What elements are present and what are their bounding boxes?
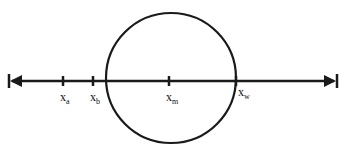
diagram-canvas [0, 0, 347, 149]
diagram: xa xb xm xw [0, 0, 347, 149]
label-xb: xb [90, 91, 100, 106]
label-xa: xa [60, 91, 70, 106]
right-arrow-icon [324, 74, 337, 88]
label-xw: xw [238, 86, 250, 101]
label-xm: xm [166, 91, 178, 106]
left-arrow-icon [9, 74, 22, 88]
circle [106, 13, 236, 143]
